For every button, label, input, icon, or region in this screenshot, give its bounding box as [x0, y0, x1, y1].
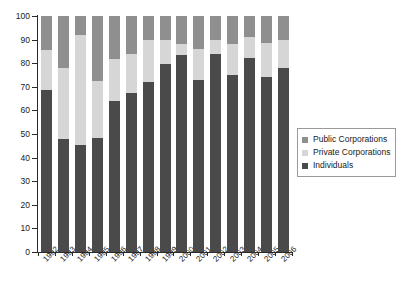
bar-segment	[261, 43, 272, 77]
bar-segment	[143, 82, 154, 252]
bar-segment	[278, 68, 289, 252]
bar-segment	[75, 16, 86, 35]
bar-segment	[176, 44, 187, 55]
bar-segment	[278, 16, 289, 40]
bar-segment	[126, 16, 137, 54]
bar-1994	[75, 16, 86, 252]
bar-2005	[261, 16, 272, 252]
bar-segment	[193, 16, 204, 49]
bar-segment	[210, 16, 221, 40]
bar-segment	[109, 59, 120, 101]
bar-segment	[75, 145, 86, 252]
bar-2004	[244, 16, 255, 252]
stacked-bar-chart: 0102030405060708090100 19921993199419951…	[0, 0, 413, 298]
bar-segment	[92, 138, 103, 252]
bar-segment	[210, 54, 221, 252]
bar-segment	[41, 16, 52, 50]
bar-segment	[92, 16, 103, 81]
bar-segment	[92, 81, 103, 138]
bar-segment	[109, 16, 120, 58]
legend-label-private-corporations: Private Corporations	[313, 148, 390, 157]
bar-segment	[143, 40, 154, 82]
bar-segment	[41, 50, 52, 90]
bar-2003	[227, 16, 238, 252]
legend-label-public-corporations: Public Corporations	[313, 135, 387, 144]
bar-segment	[160, 16, 171, 40]
bar-1993	[58, 16, 69, 252]
legend-label-individuals: Individuals	[313, 161, 353, 170]
bar-segment	[109, 101, 120, 252]
bar-segment	[176, 55, 187, 252]
bar-1999	[160, 16, 171, 252]
bar-2002	[210, 16, 221, 252]
bar-segment	[58, 68, 69, 139]
bar-segment	[41, 90, 52, 252]
bar-segment	[176, 16, 187, 44]
bar-segment	[126, 93, 137, 252]
bar-segment	[261, 77, 272, 252]
legend-item-individuals: Individuals	[302, 159, 390, 172]
bar-2001	[193, 16, 204, 252]
bar-segment	[227, 16, 238, 44]
bar-segment	[126, 54, 137, 93]
bar-segment	[244, 58, 255, 252]
bar-segment	[58, 16, 69, 68]
bar-segment	[244, 37, 255, 58]
bar-segment	[193, 49, 204, 80]
bar-1995	[92, 16, 103, 252]
legend-swatch-public-corporations	[302, 137, 308, 143]
bar-segment	[75, 35, 86, 145]
bar-segment	[244, 16, 255, 37]
bar-1996	[109, 16, 120, 252]
bar-2000	[176, 16, 187, 252]
bar-1998	[143, 16, 154, 252]
legend-swatch-private-corporations	[302, 150, 308, 156]
bar-segment	[278, 40, 289, 68]
bar-segment	[160, 40, 171, 65]
legend-swatch-individuals	[302, 163, 308, 169]
legend-item-public-corporations: Public Corporations	[302, 133, 390, 146]
bar-1992	[41, 16, 52, 252]
bar-segment	[261, 16, 272, 43]
bar-segment	[227, 75, 238, 252]
bar-segment	[210, 40, 221, 54]
legend-item-private-corporations: Private Corporations	[302, 146, 390, 159]
bar-segment	[58, 139, 69, 252]
bar-segment	[227, 44, 238, 75]
bar-segment	[193, 80, 204, 252]
bar-segment	[143, 16, 154, 40]
bar-2006	[278, 16, 289, 252]
bar-1997	[126, 16, 137, 252]
bar-segment	[160, 64, 171, 252]
chart-legend: Public Corporations Private Corporations…	[297, 128, 396, 177]
